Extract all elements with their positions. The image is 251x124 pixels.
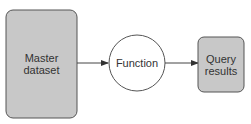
- diagram-canvas: Master dataset Function Query results: [0, 0, 251, 124]
- function-label: Function: [109, 35, 165, 91]
- query-results-label: Query results: [198, 37, 244, 92]
- master-dataset-label: Master dataset: [6, 10, 77, 118]
